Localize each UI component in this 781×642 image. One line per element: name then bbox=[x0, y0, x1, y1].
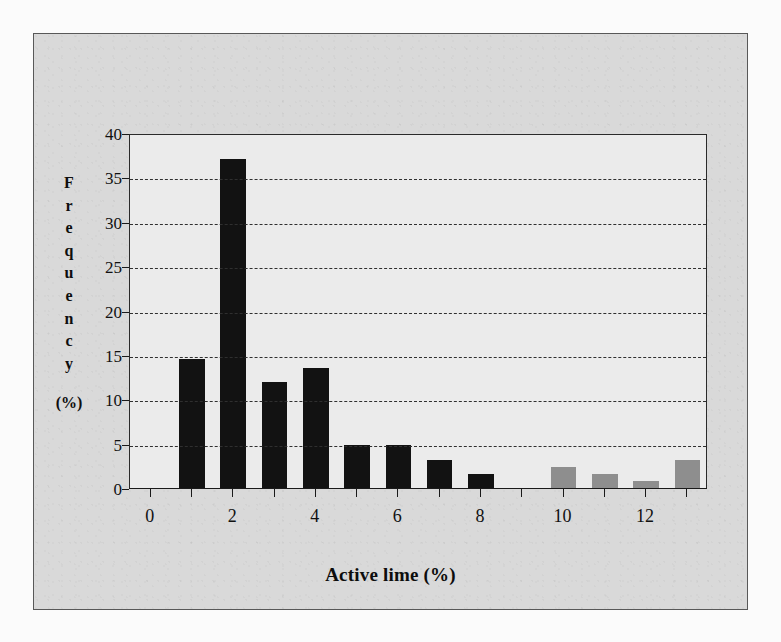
x-axis-tick-mark bbox=[150, 489, 151, 497]
gridline bbox=[130, 224, 706, 225]
bar bbox=[675, 460, 701, 489]
gridline bbox=[130, 179, 706, 180]
gridline bbox=[130, 401, 706, 402]
x-axis-tick-mark bbox=[439, 489, 440, 497]
y-axis-tick-label: 20 bbox=[88, 304, 122, 321]
y-axis-tick-label: 0 bbox=[88, 481, 122, 498]
y-axis-tick-mark bbox=[122, 267, 129, 268]
y-axis-title-letter: e bbox=[52, 217, 86, 240]
x-axis-tick-mark bbox=[563, 489, 564, 497]
x-axis-tick-marks bbox=[129, 489, 707, 498]
x-axis-tick-mark bbox=[232, 489, 233, 497]
x-axis-tick-label: 8 bbox=[475, 506, 484, 527]
gridline bbox=[130, 268, 706, 269]
y-axis-title-letter: e bbox=[52, 285, 86, 308]
y-axis-tick-mark bbox=[122, 400, 129, 401]
y-axis-title-letter: y bbox=[52, 353, 86, 376]
bar bbox=[262, 382, 288, 489]
x-axis-tick-label: 0 bbox=[145, 506, 154, 527]
y-axis-tick-label: 25 bbox=[88, 259, 122, 276]
y-axis-title: Frequency(%) bbox=[52, 172, 86, 415]
x-axis-tick-label: 10 bbox=[554, 506, 572, 527]
y-axis-tick-mark bbox=[122, 134, 129, 135]
x-axis-tick-mark bbox=[521, 489, 522, 497]
chart-figure: Frequency(%) 0510152025303540 024681012 … bbox=[33, 33, 748, 610]
y-axis-title-letter: q bbox=[52, 240, 86, 263]
y-axis-tick-label: 30 bbox=[88, 215, 122, 232]
bar bbox=[220, 159, 246, 489]
x-axis-tick-mark bbox=[686, 489, 687, 497]
bar bbox=[592, 474, 618, 489]
y-axis-tick-mark bbox=[122, 445, 129, 446]
x-axis-tick-mark bbox=[480, 489, 481, 497]
gridline bbox=[130, 446, 706, 447]
y-axis-title-letter: r bbox=[52, 195, 86, 218]
x-axis-tick-label: 6 bbox=[393, 506, 402, 527]
x-axis-tick-label: 2 bbox=[228, 506, 237, 527]
y-axis-tick-label: 35 bbox=[88, 170, 122, 187]
bar bbox=[427, 460, 453, 489]
x-axis-tick-mark bbox=[397, 489, 398, 497]
bar bbox=[344, 445, 370, 489]
x-axis-title: Active lime (%) bbox=[34, 564, 747, 586]
y-axis-tick-label: 15 bbox=[88, 348, 122, 365]
bar bbox=[303, 368, 329, 489]
plot-inner bbox=[130, 135, 706, 489]
y-axis-tick-mark bbox=[122, 489, 129, 490]
y-axis-tick-label: 10 bbox=[88, 392, 122, 409]
y-axis-unit: (%) bbox=[52, 392, 86, 415]
x-axis-tick-mark bbox=[604, 489, 605, 497]
y-axis-tick-labels: 0510152025303540 bbox=[86, 34, 122, 611]
y-axis-tick-mark bbox=[122, 178, 129, 179]
gridline bbox=[130, 357, 706, 358]
x-axis-tick-mark bbox=[191, 489, 192, 497]
bar bbox=[179, 359, 205, 489]
y-axis-title-letter: F bbox=[52, 172, 86, 195]
y-axis-tick-mark bbox=[122, 312, 129, 313]
y-axis-title-letter: c bbox=[52, 330, 86, 353]
y-axis-title-letter: u bbox=[52, 262, 86, 285]
y-axis-tick-label: 40 bbox=[88, 126, 122, 143]
bar bbox=[386, 445, 412, 489]
x-axis-tick-mark bbox=[315, 489, 316, 497]
x-axis-tick-label: 4 bbox=[310, 506, 319, 527]
plot-area bbox=[129, 134, 707, 489]
x-axis-tick-labels: 024681012 bbox=[129, 506, 707, 536]
x-axis-tick-label: 12 bbox=[636, 506, 654, 527]
y-axis-tick-mark bbox=[122, 356, 129, 357]
gridline bbox=[130, 313, 706, 314]
y-axis-tick-label: 5 bbox=[88, 437, 122, 454]
bar bbox=[551, 467, 577, 489]
x-axis-tick-mark bbox=[356, 489, 357, 497]
bar bbox=[468, 474, 494, 489]
y-axis-title-letter: n bbox=[52, 308, 86, 331]
x-axis-tick-mark bbox=[645, 489, 646, 497]
y-axis-tick-mark bbox=[122, 223, 129, 224]
x-axis-tick-mark bbox=[274, 489, 275, 497]
